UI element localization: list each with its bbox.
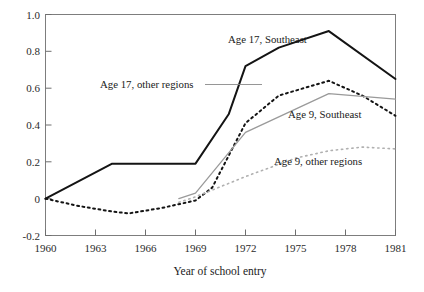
y-tick-label-1.0: 1.0 — [26, 9, 40, 21]
series-label-age-17-other-regions: Age 17, other regions — [100, 78, 194, 90]
y-tick-label-0: 0 — [35, 193, 41, 205]
x-tick-label-1981: 1981 — [385, 242, 407, 254]
y-tick-label-0.6: 0.6 — [26, 82, 40, 94]
x-tick-label-1966: 1966 — [135, 242, 158, 254]
x-axis-title: Year of school entry — [173, 265, 266, 278]
series-label-age-9-other-regions: Age 9, other regions — [274, 155, 362, 167]
x-tick-label-1975: 1975 — [285, 242, 308, 254]
x-tick-label-1963: 1963 — [85, 242, 108, 254]
y-tick-label-0.4: 0.4 — [26, 119, 40, 131]
x-tick-label-1969: 1969 — [185, 242, 208, 254]
x-tick-label-1972: 1972 — [235, 242, 257, 254]
chart-background — [0, 0, 424, 292]
y-tick-label--0.2: -0.2 — [23, 230, 40, 242]
y-tick-label-0.8: 0.8 — [26, 45, 40, 57]
series-label-age-17-southeast: Age 17, Southeast — [228, 33, 307, 45]
series-label-age-9-southeast: Age 9, Southeast — [288, 108, 361, 120]
line-chart: 1.0 0.8 0.6 0.4 0.2 0 -0.2 1960 1963 196… — [0, 0, 424, 292]
y-tick-label-0.2: 0.2 — [26, 156, 40, 168]
x-tick-label-1978: 1978 — [335, 242, 358, 254]
x-tick-label-1960: 1960 — [35, 242, 58, 254]
